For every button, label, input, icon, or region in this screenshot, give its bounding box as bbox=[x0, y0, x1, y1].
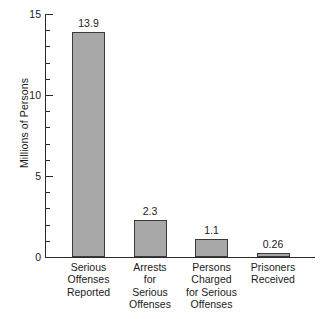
x-axis-category-label: Serious Offenses Reported bbox=[56, 261, 122, 298]
y-tick-label: 10 bbox=[1, 90, 41, 100]
bar-group[interactable]: 2.3 bbox=[134, 14, 167, 257]
bar-value-label: 13.9 bbox=[78, 18, 98, 29]
bar-rect[interactable] bbox=[195, 239, 228, 257]
bar-group[interactable]: 13.9 bbox=[72, 14, 105, 257]
bar-group[interactable]: 0.26 bbox=[257, 14, 290, 257]
bar-rect[interactable] bbox=[134, 220, 167, 257]
y-tick-label: 5 bbox=[1, 171, 41, 181]
bar-value-label: 0.26 bbox=[263, 239, 283, 250]
plot-area: 13.92.31.10.26 bbox=[45, 14, 315, 257]
x-axis-category-label: Prisoners Received bbox=[240, 261, 306, 286]
y-tick-label: 15 bbox=[1, 9, 41, 19]
bar-group[interactable]: 1.1 bbox=[195, 14, 228, 257]
x-axis-category-label: Arrests for Serious Offenses bbox=[117, 261, 183, 311]
x-axis-line bbox=[45, 257, 315, 258]
x-axis-category-label: Persons Charged for Serious Offenses bbox=[179, 261, 245, 311]
y-tick-major bbox=[46, 257, 53, 258]
bar-rect[interactable] bbox=[257, 253, 290, 257]
y-tick-label: 0 bbox=[1, 252, 41, 262]
bar-value-label: 2.3 bbox=[143, 206, 158, 217]
bar-value-label: 1.1 bbox=[204, 225, 219, 236]
bar-rect[interactable] bbox=[72, 32, 105, 257]
bar-chart: Millions of Persons 151050 13.92.31.10.2… bbox=[0, 0, 328, 319]
